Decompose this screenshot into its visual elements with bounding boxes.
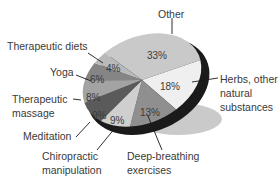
label-chiro: Chiropractic manipulation: [42, 150, 102, 176]
label-massage: Therapeutic massage: [12, 93, 70, 119]
label-herbs-line3: substances: [220, 101, 273, 113]
label-herbs-line2: natural: [220, 87, 252, 99]
pct-chiro: 9%: [110, 115, 125, 126]
pct-diets: 4%: [106, 63, 121, 74]
pct-yoga: 6%: [90, 74, 105, 85]
label-deep-line1: Deep-breathing: [127, 150, 200, 162]
label-chiro-line1: Chiropractic: [42, 150, 98, 162]
label-deep-line2: exercises: [127, 164, 171, 176]
pct-meditation: 9%: [92, 110, 107, 121]
label-massage-line1: Therapeutic: [12, 93, 67, 105]
label-other: Other: [158, 8, 185, 20]
label-massage-line2: massage: [12, 107, 55, 119]
label-herbs-line1: Herbs, other: [220, 73, 278, 85]
pct-massage: 8%: [86, 92, 101, 103]
pie-chart: 33% 18% 13% 9% 9% 8% 6% 4% Other Herbs, …: [0, 0, 280, 179]
label-deep: Deep-breathing exercises: [127, 150, 202, 176]
label-herbs: Herbs, other natural substances: [220, 73, 280, 113]
label-diets: Therapeutic diets: [7, 40, 88, 52]
pct-deep: 13%: [140, 107, 160, 118]
label-yoga: Yoga: [50, 66, 74, 78]
pct-other: 33%: [147, 50, 167, 61]
label-meditation: Meditation: [23, 130, 72, 142]
label-chiro-line2: manipulation: [42, 164, 102, 176]
pct-herbs: 18%: [160, 81, 180, 92]
